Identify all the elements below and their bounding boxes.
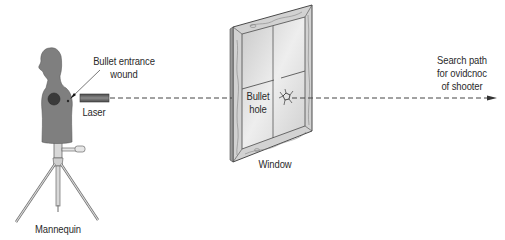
- entrance-wound-mark: [67, 100, 69, 102]
- diagram-stage: Bullet entrance wound Laser Mannequin Bu…: [0, 0, 505, 240]
- label-search-path-line2: for ovidcnoc: [424, 67, 500, 80]
- window-icon: [230, 5, 312, 162]
- label-bullet-entrance: Bullet entrance wound: [88, 55, 160, 81]
- arrowhead-icon: [487, 96, 497, 101]
- laser-device: [80, 94, 109, 102]
- tripod-icon: [16, 142, 98, 222]
- label-search-path-line1: Search path: [424, 54, 500, 67]
- label-search-path: Search path for ovidcnoc of shooter: [424, 54, 500, 93]
- diagram-canvas: [0, 0, 505, 240]
- label-search-path-line3: of shooter: [424, 80, 500, 93]
- label-bullet-hole-line2: hole: [244, 103, 273, 116]
- label-bullet-entrance-line1: Bullet entrance: [88, 55, 160, 68]
- mannequin-icon: [39, 48, 72, 144]
- label-window: Window: [253, 158, 298, 171]
- label-bullet-entrance-line2: wound: [88, 68, 160, 81]
- label-bullet-hole-line1: Bullet: [244, 90, 273, 103]
- target-circle: [48, 93, 60, 105]
- label-laser: Laser: [78, 106, 110, 119]
- label-mannequin: Mannequin: [29, 223, 87, 236]
- label-bullet-hole: Bullet hole: [244, 90, 273, 116]
